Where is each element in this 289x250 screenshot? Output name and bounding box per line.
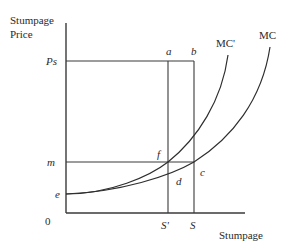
e-label: e [55,188,60,200]
point-f-label: f [157,148,162,160]
y-axis-title-line1: Stumpage [10,14,54,26]
origin-label: 0 [45,215,51,227]
x-axis-title: Stumpage [219,229,263,241]
mc-label: MC [259,29,276,41]
point-a-label: a [166,45,172,57]
y-axis-title-line2: Price [10,28,33,40]
point-b-label: b [191,45,197,57]
s-prime-label: S' [161,219,170,231]
point-d-label: d [176,175,182,187]
ps-label: Ps [45,55,57,67]
stumpage-supply-diagram: Stumpage Price Stumpage 0 Ps m e S' S a … [0,0,289,250]
s-label: S [190,219,196,231]
point-c-label: c [200,166,205,178]
m-label: m [47,156,55,168]
mc-prime-label: MC' [216,37,235,49]
